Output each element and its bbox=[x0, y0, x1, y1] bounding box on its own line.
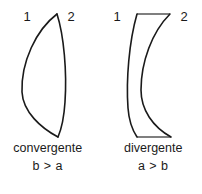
convergent-caption-relation: b > a bbox=[32, 158, 63, 174]
convergent-caption-group: convergente b > a bbox=[0, 140, 100, 194]
divergent-label-2: 2 bbox=[180, 9, 187, 24]
convergent-label-2: 2 bbox=[67, 9, 74, 24]
captions-row: convergente b > a divergente a > b bbox=[0, 140, 201, 194]
divergent-lens-surface-1 bbox=[127, 14, 137, 137]
convergent-lens-drawing bbox=[22, 14, 66, 137]
convergent-lens-surface-1 bbox=[22, 14, 58, 137]
convergent-lens-surface-2 bbox=[57, 14, 66, 137]
divergent-caption-name: divergente bbox=[124, 140, 182, 156]
divergent-label-1: 1 bbox=[113, 9, 120, 24]
divergent-lens-surface-2 bbox=[141, 14, 171, 137]
divergent-caption-group: divergente a > b bbox=[100, 140, 202, 194]
divergent-caption-relation: a > b bbox=[138, 158, 169, 174]
convergent-caption-name: convergente bbox=[13, 140, 82, 156]
convergent-label-1: 1 bbox=[23, 9, 30, 24]
lens-comparison-figure: 1 2 1 2 convergente b > a divergente a >… bbox=[0, 0, 201, 194]
divergent-lens-drawing bbox=[127, 14, 171, 137]
